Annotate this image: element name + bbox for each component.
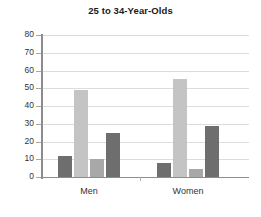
chart-title: 25 to 34-Year-Olds [0, 5, 261, 16]
y-axis-tick-label: 20 [0, 137, 34, 146]
x-axis-tick [140, 177, 141, 181]
bar [58, 156, 72, 177]
y-axis-tick-label: 30 [0, 119, 34, 128]
bar [106, 133, 120, 177]
y-axis-tick-label: 10 [0, 154, 34, 163]
x-axis-line [41, 177, 249, 178]
bar [205, 126, 219, 177]
bar [173, 79, 187, 177]
x-axis-tick-label: Men [49, 186, 129, 196]
bar-chart: 25 to 34-Year-Olds 80706050403020100 Men… [0, 0, 261, 217]
y-axis-tick-label: 0 [0, 172, 34, 181]
y-axis-tick-label: 60 [0, 66, 34, 75]
y-axis-tick-label: 40 [0, 101, 34, 110]
y-axis-tick-label: 50 [0, 83, 34, 92]
bar [189, 169, 203, 177]
plot-area [43, 35, 249, 177]
y-axis-tick-label: 70 [0, 48, 34, 57]
y-axis-labels: 80706050403020100 [0, 0, 34, 217]
bar-group [157, 35, 219, 177]
bar [74, 90, 88, 177]
x-axis-tick-label: Women [148, 186, 228, 196]
bar [90, 159, 104, 177]
y-axis-tick-label: 80 [0, 30, 34, 39]
bar-group [58, 35, 120, 177]
bar [157, 163, 171, 177]
